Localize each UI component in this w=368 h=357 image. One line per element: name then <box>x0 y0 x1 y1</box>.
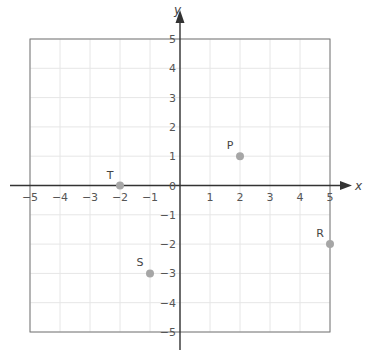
point-r-label: R <box>316 227 324 240</box>
x-tick-label: 2 <box>237 191 244 204</box>
x-tick-label: −1 <box>142 191 158 204</box>
y-tick-label: 4 <box>169 62 176 75</box>
y-tick-label: −2 <box>160 238 176 251</box>
point-s-marker <box>146 269 154 277</box>
point-t-label: T <box>106 169 114 182</box>
y-tick-label: −1 <box>160 209 176 222</box>
point-t-marker <box>116 182 124 190</box>
y-tick-label: 1 <box>169 150 176 163</box>
y-tick-label: −5 <box>160 326 176 339</box>
point-r-marker <box>326 240 334 248</box>
y-tick-label: 0 <box>169 180 176 193</box>
axes: xy <box>10 3 363 350</box>
x-tick-label: 3 <box>267 191 274 204</box>
point-p-label: P <box>227 139 234 152</box>
x-tick-label: −3 <box>82 191 98 204</box>
y-tick-label: 2 <box>169 121 176 134</box>
x-axis-label: x <box>354 179 363 193</box>
x-tick-label: 1 <box>207 191 214 204</box>
y-tick-label: 3 <box>169 92 176 105</box>
y-tick-label: 5 <box>169 33 176 46</box>
y-tick-label: −3 <box>160 267 176 280</box>
x-tick-label: 5 <box>327 191 334 204</box>
y-tick-label: −4 <box>160 297 176 310</box>
x-tick-label: −2 <box>112 191 128 204</box>
coordinate-plane: xy −5−4−3−2−112345543210−1−2−3−4−5 PRST <box>0 0 368 357</box>
x-tick-label: −4 <box>52 191 68 204</box>
x-tick-label: −5 <box>22 191 38 204</box>
point-s-label: S <box>137 256 144 269</box>
point-p-marker <box>236 152 244 160</box>
y-axis-label: y <box>173 3 182 17</box>
x-axis-arrow-icon <box>340 181 352 190</box>
x-tick-label: 4 <box>297 191 304 204</box>
